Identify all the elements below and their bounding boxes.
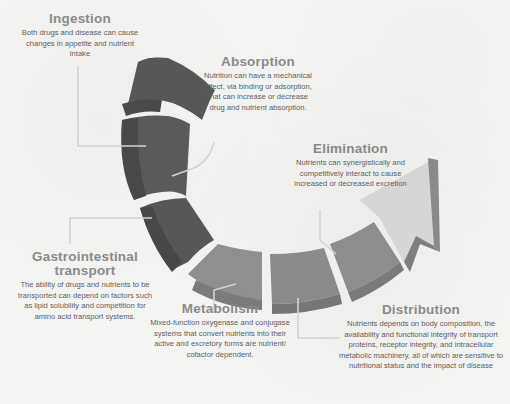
stage-title: Ingestion <box>20 12 140 26</box>
stage-ingestion: Ingestion Both drugs and disease can cau… <box>20 12 140 60</box>
connector-gi <box>70 218 152 244</box>
stage-title: Absorption <box>203 55 313 69</box>
segment-ingestion <box>122 58 215 121</box>
stage-description: Nutrients can synergistically and compet… <box>288 158 413 190</box>
stage-title: Distribution <box>336 303 506 317</box>
stage-description: Mixed-function oxygenase and conjugase s… <box>150 318 290 360</box>
stage-description: The ability of drugs and nutrients to be… <box>15 280 155 322</box>
stage-metabolism: Metabolism Mixed-function oxygenase and … <box>150 302 290 360</box>
stage-title-line1: Gastrointestinal <box>15 250 155 264</box>
stage-title-line2: transport <box>15 264 155 278</box>
stage-gastrointestinal-transport: Gastrointestinal transport The ability o… <box>15 250 155 322</box>
stage-title: Elimination <box>288 142 413 156</box>
stage-description: Both drugs and disease can cause changes… <box>20 28 140 60</box>
stage-absorption: Absorption Nutrition can have a mechanic… <box>203 55 313 113</box>
segment-absorption <box>121 116 190 201</box>
stage-description: Nutrients depends on body composition, t… <box>336 319 506 372</box>
stage-title: Metabolism <box>150 302 290 316</box>
stage-description: Nutrition can have a mechanical effect, … <box>203 71 313 113</box>
stage-elimination: Elimination Nutrients can synergisticall… <box>288 142 413 190</box>
stage-distribution: Distribution Nutrients depends on body c… <box>336 303 506 372</box>
